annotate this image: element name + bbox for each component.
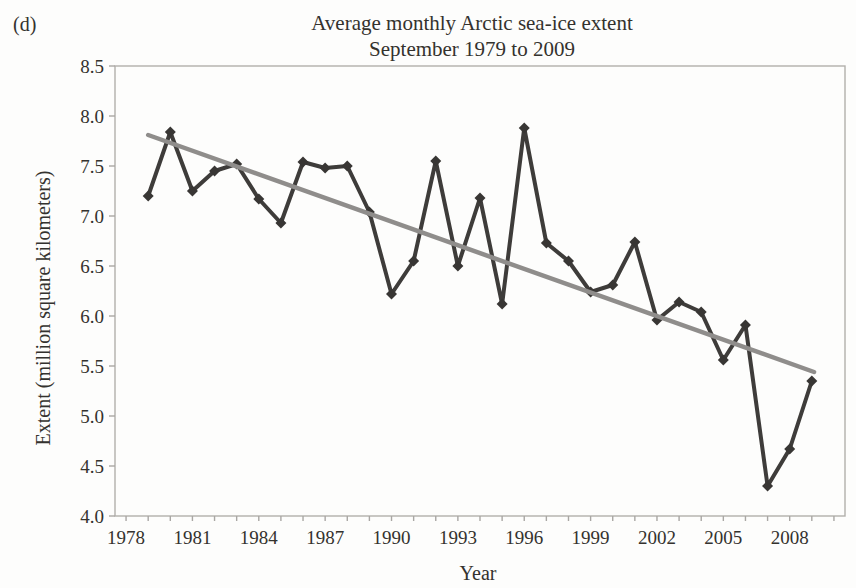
data-point-marker: [320, 163, 331, 174]
x-tick-label: 1978: [107, 527, 145, 548]
figure-panel-label: (d): [13, 13, 36, 36]
data-point-marker: [497, 299, 508, 310]
x-tick-label: 2002: [638, 527, 676, 548]
plot-frame: [115, 66, 845, 516]
trend-line: [148, 135, 814, 372]
x-axis-ticks: 1978198119841987199019931996199920022005…: [107, 516, 834, 548]
y-tick-label: 6.5: [80, 256, 104, 277]
arctic-sea-ice-figure: (d) Average monthly Arctic sea-ice exten…: [0, 0, 856, 588]
chart-title: Average monthly Arctic sea-ice extent: [311, 11, 633, 35]
x-tick-label: 1984: [240, 527, 279, 548]
y-tick-label: 4.0: [80, 506, 104, 527]
chart-subtitle: September 1979 to 2009: [369, 37, 575, 61]
data-point-marker: [519, 123, 530, 134]
y-tick-label: 8.0: [80, 106, 104, 127]
data-point-marker: [475, 193, 486, 204]
y-tick-label: 5.5: [80, 356, 104, 377]
x-tick-label: 1993: [439, 527, 477, 548]
x-tick-label: 1990: [373, 527, 411, 548]
data-point-marker: [298, 157, 309, 168]
trendline-layer: [148, 135, 814, 372]
y-tick-label: 7.0: [80, 206, 104, 227]
x-tick-label: 1981: [173, 527, 211, 548]
x-tick-label: 1999: [572, 527, 610, 548]
data-point-marker: [143, 191, 154, 202]
sea-ice-extent-series-line: [148, 128, 812, 486]
data-point-marker: [430, 156, 441, 167]
y-tick-label: 5.0: [80, 406, 104, 427]
y-axis-title: Extent (million square kilometers): [32, 171, 55, 446]
data-point-marker: [452, 261, 463, 272]
data-point-marker: [165, 127, 176, 138]
x-tick-label: 1996: [505, 527, 543, 548]
data-point-marker: [806, 376, 817, 387]
y-tick-label: 6.0: [80, 306, 104, 327]
y-tick-label: 4.5: [80, 456, 104, 477]
x-axis-title: Year: [460, 562, 497, 584]
x-tick-label: 1987: [306, 527, 344, 548]
x-tick-label: 2005: [704, 527, 742, 548]
y-axis-ticks: 4.04.55.05.56.06.57.07.58.08.5: [80, 56, 115, 527]
sea-ice-extent-chart: (d) Average monthly Arctic sea-ice exten…: [0, 0, 856, 588]
y-tick-label: 8.5: [80, 56, 104, 77]
series-layer: [143, 123, 818, 492]
x-tick-label: 2008: [771, 527, 809, 548]
y-tick-label: 7.5: [80, 156, 104, 177]
